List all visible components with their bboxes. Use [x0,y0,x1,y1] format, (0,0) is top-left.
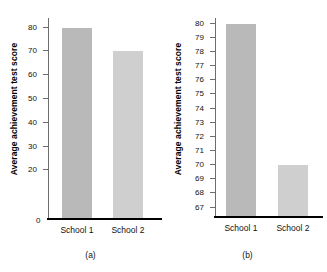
y-tick-72 [210,136,215,137]
x-axis-label-2: School 2 [111,226,144,235]
y-tick-77 [210,65,215,66]
bar-school-1-b [226,24,256,216]
y-tick-50 [43,98,48,99]
chart-panel-a: Average achievement test score 0 2030405… [0,0,161,272]
y-tick-label-79: 79 [195,34,204,42]
y-tick-80 [210,23,215,24]
plot-area-b: 6768697071727374757677787980 School 1Sch… [215,18,317,218]
y-tick-78 [210,51,215,52]
y-tick-label-75: 75 [195,90,204,98]
y-tick-76 [210,79,215,80]
x-axis-label-1: School 1 [60,226,93,235]
y-tick-label-78: 78 [195,48,204,56]
bar-school-2-a [113,51,143,218]
y-axis-zero-label-a: 0 [36,217,40,225]
panel-caption-a: (a) [10,250,171,260]
y-axis-line-b [215,18,216,218]
y-tick-label-60: 60 [28,71,37,79]
y-axis-title-b-text: Average achievement test score [173,43,183,176]
y-tick-label-76: 76 [195,76,204,84]
y-tick-label-69: 69 [195,175,204,183]
chart-panel-b: Average achievement test score 676869707… [161,0,322,272]
y-tick-label-80: 80 [28,24,37,32]
y-tick-80 [43,27,48,28]
y-tick-label-30: 30 [28,143,37,151]
x-axis-label-2: School 2 [276,224,309,233]
bar-school-2-b [278,165,308,216]
x-axis-labels-a: School 1School 2 [48,226,156,238]
y-tick-label-71: 71 [195,147,204,155]
y-tick-label-50: 50 [28,95,37,103]
y-tick-label-72: 72 [195,133,204,141]
y-tick-label-73: 73 [195,119,204,127]
panel-caption-b: (b) [167,250,327,260]
y-tick-40 [43,122,48,123]
y-tick-20 [43,169,48,170]
y-tick-73 [210,122,215,123]
y-tick-69 [210,178,215,179]
y-tick-label-20: 20 [28,166,37,174]
plot-area-a: 0 20304050607080 School 1School 2 [48,18,156,220]
bar-school-1-a [62,28,92,218]
y-axis-line-a [48,18,49,220]
y-axis-title-a-text: Average achievement test score [9,43,19,176]
y-tick-label-68: 68 [195,189,204,197]
y-tick-67 [210,207,215,208]
y-tick-70 [43,50,48,51]
x-axis-labels-b: School 1School 2 [215,224,317,236]
y-tick-60 [43,74,48,75]
y-tick-label-74: 74 [195,105,204,113]
y-tick-74 [210,108,215,109]
y-tick-79 [210,37,215,38]
y-tick-68 [210,192,215,193]
y-tick-71 [210,150,215,151]
y-tick-label-80: 80 [195,20,204,28]
y-axis-title-a: Average achievement test score [5,0,23,218]
y-tick-75 [210,93,215,94]
x-axis-label-1: School 1 [224,224,257,233]
y-tick-label-70: 70 [28,47,37,55]
y-tick-30 [43,146,48,147]
y-tick-70 [210,164,215,165]
y-tick-label-67: 67 [195,204,204,212]
y-tick-label-77: 77 [195,62,204,70]
y-axis-title-b: Average achievement test score [169,0,187,218]
y-tick-label-70: 70 [195,161,204,169]
y-tick-label-40: 40 [28,119,37,127]
